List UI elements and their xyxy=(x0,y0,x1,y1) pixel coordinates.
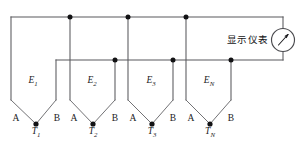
emf-label-1: E1 xyxy=(28,76,37,88)
meter-caption-label: 显示仪表 xyxy=(227,35,268,45)
emf-label-n: EN xyxy=(204,76,214,88)
middle-bus-node-1 xyxy=(113,58,118,63)
terminal-a-label-n: A xyxy=(188,114,195,124)
emf-label-2: E2 xyxy=(87,76,96,88)
terminal-a-label-2: A xyxy=(71,114,78,124)
junction-label-2: T2 xyxy=(89,127,98,139)
terminal-b-label-1: B xyxy=(54,114,60,124)
top-bus-node-3 xyxy=(184,15,189,20)
terminal-b-label-n: B xyxy=(228,114,234,124)
top-bus-node-1 xyxy=(68,15,73,20)
junction-label-n: TN xyxy=(205,127,215,139)
junction-label-1: T1 xyxy=(32,127,41,139)
junction-label-3: T3 xyxy=(148,127,157,139)
terminal-a-label-1: A xyxy=(13,114,20,124)
terminal-b-label-3: B xyxy=(170,114,176,124)
top-bus-node-2 xyxy=(126,15,131,20)
terminal-b-label-2: B xyxy=(112,114,118,124)
middle-bus-node-2 xyxy=(171,58,176,63)
terminal-a-label-3: A xyxy=(130,114,137,124)
middle-bus-node-3 xyxy=(229,58,234,63)
thermocouple-parallel-circuit-diagram: E1 E2 E3 EN A B A B A B A B T1 T2 T3 TN … xyxy=(0,0,302,158)
emf-label-3: E3 xyxy=(146,76,155,88)
